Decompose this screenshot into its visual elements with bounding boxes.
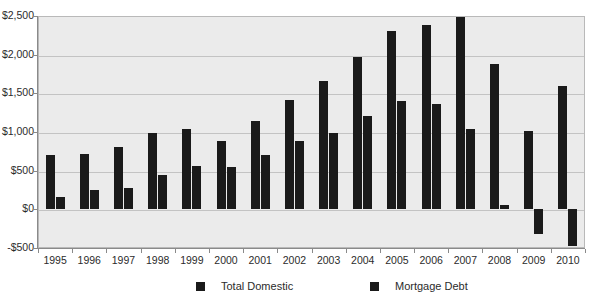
bar-total-domestic-1996 (80, 154, 89, 209)
bar-total-domestic-2008 (490, 64, 499, 209)
bar-mortgage-debt-2002 (295, 141, 304, 210)
x-axis-tick-mark (312, 249, 313, 253)
x-axis-tick-label: 1996 (72, 254, 106, 266)
x-axis-tick-label: 2007 (448, 254, 482, 266)
x-axis-tick-mark (585, 249, 586, 253)
y-axis-tick-label: $1,500 (0, 87, 34, 98)
x-axis-tick-label: 2004 (346, 254, 380, 266)
legend-swatch-icon (370, 282, 379, 291)
x-axis-tick-mark (243, 249, 244, 253)
y-axis-tick-label: $2,000 (0, 49, 34, 60)
x-axis-tick-label: 1995 (38, 254, 72, 266)
bar-total-domestic-2000 (217, 141, 226, 209)
x-axis-tick-mark (551, 249, 552, 253)
x-axis-tick-mark (72, 249, 73, 253)
bar-mortgage-debt-2006 (432, 104, 441, 209)
gridline (39, 133, 584, 134)
bar-total-domestic-2006 (422, 25, 431, 210)
y-axis-tick-mark (33, 16, 38, 17)
bar-total-domestic-2010 (558, 86, 567, 210)
y-axis: $2,500$2,000$1,500$1,000$500$0-$500 (0, 0, 34, 298)
plot-area (38, 16, 585, 248)
bar-mortgage-debt-1998 (158, 175, 167, 209)
x-axis-tick-label: 2001 (243, 254, 277, 266)
y-axis-tick-label: $500 (0, 165, 34, 176)
x-axis-tick-label: 2008 (482, 254, 516, 266)
bar-mortgage-debt-2000 (227, 167, 236, 210)
x-axis-tick-mark (517, 249, 518, 253)
bar-chart: $2,500$2,000$1,500$1,000$500$0-$500 1995… (0, 0, 591, 298)
x-axis-tick-label: 2006 (414, 254, 448, 266)
x-axis-tick-mark (106, 249, 107, 253)
bar-mortgage-debt-2008 (500, 205, 509, 209)
y-axis-tick-mark (33, 171, 38, 172)
x-axis-tick-label: 2002 (277, 254, 311, 266)
bar-total-domestic-2001 (251, 121, 260, 209)
bar-mortgage-debt-2010 (568, 209, 577, 246)
x-axis-tick-mark (38, 249, 39, 253)
x-axis-line (37, 248, 585, 249)
y-axis-tick-label: $0 (0, 203, 34, 214)
legend-entry-total-domestic[interactable]: Total Domestic (196, 279, 293, 293)
x-axis-tick-mark (414, 249, 415, 253)
bar-mortgage-debt-2009 (534, 209, 543, 234)
x-axis-tick-label: 2005 (380, 254, 414, 266)
x-axis-tick-label: 2010 (551, 254, 585, 266)
y-axis-tick-mark (33, 132, 38, 133)
gridline (39, 94, 584, 95)
bar-mortgage-debt-1999 (192, 166, 201, 209)
bar-mortgage-debt-2005 (397, 101, 406, 209)
y-axis-tick-mark (33, 209, 38, 210)
bar-mortgage-debt-2004 (363, 116, 372, 210)
bar-mortgage-debt-2007 (466, 129, 475, 209)
y-axis-tick-mark (33, 55, 38, 56)
x-axis-tick-label: 2009 (517, 254, 551, 266)
bar-total-domestic-2002 (285, 100, 294, 209)
bar-mortgage-debt-2001 (261, 155, 270, 209)
y-axis-tick-label: -$500 (0, 242, 34, 253)
bar-mortgage-debt-1995 (56, 197, 65, 210)
legend-swatch-icon (196, 282, 205, 291)
legend-entry-mortgage-debt[interactable]: Mortgage Debt (370, 279, 468, 293)
x-axis-tick-label: 1999 (175, 254, 209, 266)
x-axis-tick-label: 1997 (106, 254, 140, 266)
x-axis-tick-label: 1998 (141, 254, 175, 266)
x-axis-tick-mark (346, 249, 347, 253)
x-axis-tick-mark (380, 249, 381, 253)
bar-total-domestic-1998 (148, 133, 157, 209)
x-axis-tick-label: 2003 (312, 254, 346, 266)
x-axis-tick-label: 2000 (209, 254, 243, 266)
x-axis-tick-mark (277, 249, 278, 253)
y-axis-tick-mark (33, 93, 38, 94)
chart-legend: Total DomesticMortgage Debt (0, 279, 591, 295)
bar-total-domestic-2009 (524, 131, 533, 209)
bar-total-domestic-1999 (182, 129, 191, 209)
y-axis-tick-label: $1,000 (0, 126, 34, 137)
gridline (39, 210, 584, 211)
x-axis-tick-mark (482, 249, 483, 253)
bar-mortgage-debt-1996 (90, 190, 99, 209)
bar-total-domestic-2003 (319, 81, 328, 209)
x-axis-tick-mark (209, 249, 210, 253)
bar-mortgage-debt-1997 (124, 188, 133, 209)
bar-total-domestic-2004 (353, 57, 362, 210)
bar-mortgage-debt-2003 (329, 133, 338, 210)
x-axis-tick-mark (141, 249, 142, 253)
bar-total-domestic-2007 (456, 17, 465, 210)
gridline (39, 56, 584, 57)
x-axis-tick-mark (175, 249, 176, 253)
x-axis-tick-mark (448, 249, 449, 253)
y-axis-tick-label: $2,500 (0, 10, 34, 21)
bar-total-domestic-1997 (114, 147, 123, 210)
legend-label: Total Domestic (221, 280, 293, 292)
legend-label: Mortgage Debt (395, 280, 468, 292)
bar-total-domestic-2005 (387, 31, 396, 210)
bar-total-domestic-1995 (46, 155, 55, 209)
